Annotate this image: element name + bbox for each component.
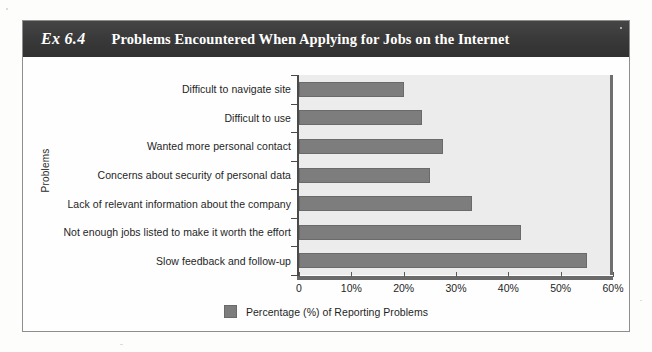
y-axis-tick bbox=[291, 75, 298, 76]
bar bbox=[299, 168, 430, 183]
bar-row bbox=[299, 75, 613, 104]
bar bbox=[299, 253, 587, 268]
plot-area bbox=[299, 75, 613, 275]
x-axis-tick-label: 40% bbox=[498, 282, 519, 294]
x-axis-tick bbox=[351, 272, 352, 277]
bar bbox=[299, 225, 521, 240]
x-axis-tick bbox=[613, 272, 614, 277]
category-label: Lack of relevant information about the c… bbox=[63, 189, 297, 218]
screenshot-root: Ex 6.4 Problems Encountered When Applyin… bbox=[0, 0, 652, 352]
bar-row bbox=[299, 104, 613, 133]
bar-row bbox=[299, 161, 613, 190]
x-axis-tick-label: 60% bbox=[602, 282, 623, 294]
bar bbox=[299, 110, 422, 125]
category-label: Concerns about security of personal data bbox=[63, 161, 297, 190]
category-label: Slow feedback and follow-up bbox=[63, 246, 297, 275]
exhibit-header-banner: Ex 6.4 Problems Encountered When Applyin… bbox=[23, 21, 629, 57]
chart-legend: Percentage (%) of Reporting Problems bbox=[23, 305, 629, 318]
legend-color-swatch bbox=[224, 305, 237, 318]
legend-label: Percentage (%) of Reporting Problems bbox=[246, 306, 428, 318]
category-label: Not enough jobs listed to make it worth … bbox=[63, 218, 297, 247]
scan-speckle bbox=[120, 344, 123, 345]
plot-right-border bbox=[610, 75, 613, 275]
x-axis-tick-label: 0 bbox=[296, 282, 302, 294]
y-axis-tick bbox=[291, 132, 298, 133]
bar bbox=[299, 196, 472, 211]
x-axis-tick-label: 10% bbox=[341, 282, 362, 294]
bar bbox=[299, 82, 404, 97]
y-axis-line bbox=[297, 75, 299, 278]
bar-row bbox=[299, 132, 613, 161]
scan-speckle bbox=[640, 300, 642, 301]
bar-series bbox=[299, 75, 613, 275]
x-axis-tick bbox=[561, 272, 562, 277]
y-axis-tick bbox=[291, 189, 298, 190]
y-axis-tick bbox=[291, 246, 298, 247]
x-axis-tick-label: 50% bbox=[550, 282, 571, 294]
bar-row bbox=[299, 189, 613, 218]
x-axis-tick-label: 20% bbox=[393, 282, 414, 294]
bar-row bbox=[299, 246, 613, 275]
x-axis-tick bbox=[404, 272, 405, 277]
bar bbox=[299, 139, 443, 154]
exhibit-card: Ex 6.4 Problems Encountered When Applyin… bbox=[22, 20, 630, 332]
exhibit-number: Ex 6.4 bbox=[41, 30, 85, 48]
category-label: Difficult to use bbox=[63, 104, 297, 133]
y-axis-tick bbox=[291, 161, 298, 162]
category-label: Wanted more personal contact bbox=[63, 132, 297, 161]
y-axis-category-labels: Difficult to navigate siteDifficult to u… bbox=[63, 75, 297, 275]
x-axis-tick-label: 30% bbox=[445, 282, 466, 294]
x-axis-line bbox=[297, 276, 613, 280]
y-axis-tick bbox=[291, 218, 298, 219]
y-axis-tick bbox=[291, 104, 298, 105]
banner-speck-icon bbox=[620, 27, 622, 29]
x-axis-tick bbox=[508, 272, 509, 277]
x-axis-tick bbox=[299, 272, 300, 277]
category-label: Difficult to navigate site bbox=[63, 75, 297, 104]
chart-body: Problems Difficult to navigate siteDiffi… bbox=[23, 57, 629, 331]
y-axis-title: Problems bbox=[40, 131, 51, 211]
exhibit-title: Problems Encountered When Applying for J… bbox=[111, 31, 509, 48]
scan-speckle bbox=[6, 8, 8, 10]
x-axis-tick bbox=[456, 272, 457, 277]
bar-row bbox=[299, 218, 613, 247]
